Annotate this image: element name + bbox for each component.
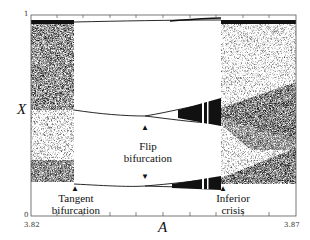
x-tick-label-right: 3.87 — [284, 221, 300, 229]
chaos-region-right — [221, 20, 296, 184]
y-tick-label-bottom: 0 — [24, 211, 28, 219]
chaos-region-left — [31, 20, 74, 182]
annotation-crisis-line2: crisis — [207, 204, 259, 216]
x-ticks-top — [57, 15, 269, 18]
annotation-crisis-line1: Inferior — [207, 192, 259, 204]
flip-marker-up-icon: ▲ — [141, 124, 149, 132]
annotation-inferior-crisis: Inferior crisis — [207, 192, 259, 216]
period-doubling-cascade — [172, 98, 221, 190]
annotation-flip-line1: Flip — [120, 140, 176, 152]
x-axis-title: A — [158, 219, 167, 236]
y-axis-title: X — [17, 101, 26, 118]
annotation-flip-bifurcation: Flip bifurcation — [120, 140, 176, 164]
y-tick-label-top: 1 — [24, 10, 28, 18]
annotation-tangent-line2: bifurcation — [48, 204, 104, 216]
annotation-tangent-line1: Tangent — [48, 192, 104, 204]
x-tick-label-left: 3.82 — [24, 221, 40, 229]
annotation-tangent-bifurcation: Tangent bifurcation — [48, 192, 104, 216]
bifurcation-chart — [0, 0, 310, 240]
flip-marker-down-icon: ▼ — [141, 173, 149, 181]
annotation-flip-line2: bifurcation — [120, 152, 176, 164]
